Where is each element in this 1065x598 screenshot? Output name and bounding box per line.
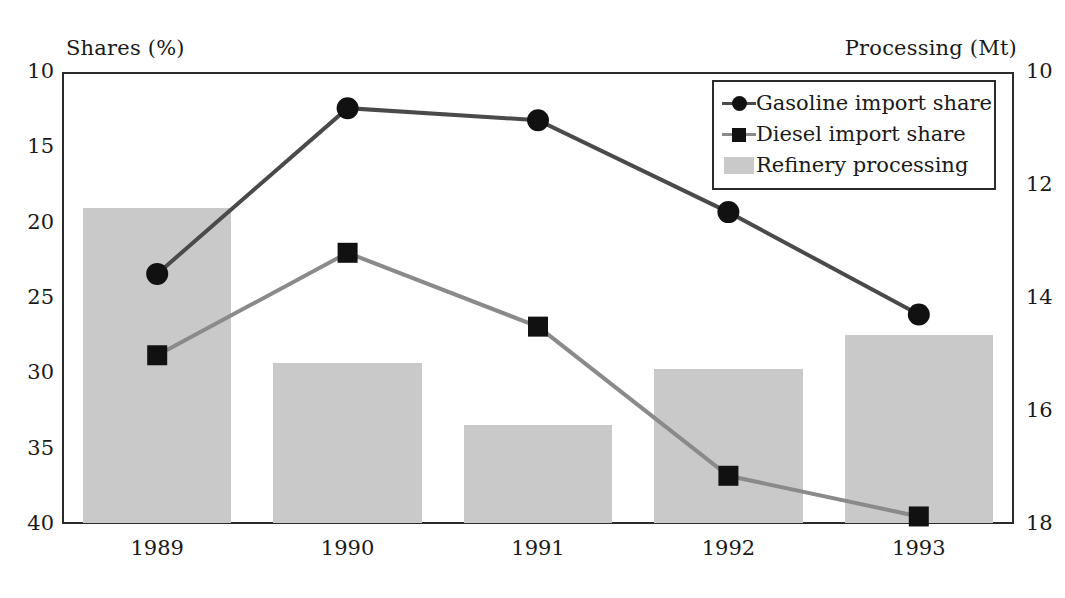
legend-label-gasoline: Gasoline import share [756, 93, 992, 114]
right-tick-16: 12 [1026, 174, 1065, 195]
legend-item-gasoline-import-share[interactable]: Gasoline import share [722, 88, 986, 119]
legend-item-diesel-import-share[interactable]: Diesel import share [722, 119, 986, 150]
diesel-marker-icon [722, 125, 756, 145]
chart-legend: Gasoline import share Diesel import shar… [712, 80, 996, 190]
legend-label-diesel: Diesel import share [756, 124, 966, 145]
x-tick-1992: 1992 [668, 536, 788, 560]
x-tick-1989: 1989 [97, 536, 217, 560]
bar-1990 [273, 363, 422, 523]
bar-1991 [464, 425, 613, 523]
refinery-bar-swatch-icon [722, 156, 756, 176]
left-tick-10: 40 [10, 513, 54, 534]
left-tick-40: 10 [10, 61, 54, 82]
left-tick-30: 20 [10, 212, 54, 233]
x-tick-1990: 1990 [288, 536, 408, 560]
legend-item-refinery-processing[interactable]: Refinery processing [722, 150, 986, 181]
x-tick-1991: 1991 [478, 536, 598, 560]
left-axis-title: Shares (%) [66, 36, 185, 60]
bar-1992 [654, 369, 803, 523]
right-tick-12: 16 [1026, 400, 1065, 421]
bar-1989 [83, 208, 232, 523]
left-tick-35: 15 [10, 136, 54, 157]
left-tick-25: 25 [10, 287, 54, 308]
right-tick-10: 18 [1026, 513, 1065, 534]
right-tick-14: 14 [1026, 287, 1065, 308]
right-tick-18: 10 [1026, 61, 1065, 82]
x-tick-1993: 1993 [859, 536, 979, 560]
right-axis-title: Processing (Mt) [845, 36, 1017, 60]
chart-container: Shares (%) Processing (Mt) 4035302520151… [0, 0, 1065, 598]
bar-1993 [845, 335, 994, 523]
legend-label-refinery: Refinery processing [756, 155, 968, 176]
gasoline-marker-icon [722, 94, 756, 114]
left-tick-15: 35 [10, 438, 54, 459]
left-tick-20: 30 [10, 362, 54, 383]
